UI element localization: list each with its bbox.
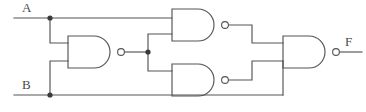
- nand-gate-4-body: [283, 36, 325, 68]
- circuit-canvas: A B F: [0, 0, 366, 112]
- labels-layer: A B F: [22, 0, 352, 92]
- nand-gate-1-inversion-bubble: [118, 49, 125, 56]
- wire-nand1-to-gate3: [148, 52, 172, 71]
- nand-gate-4-inversion-bubble: [333, 49, 340, 56]
- nand-gate-1-body: [68, 36, 110, 68]
- input-label-a: A: [22, 0, 32, 15]
- wires-layer: [14, 18, 362, 95]
- junctions-layer: [47, 15, 150, 97]
- nand-gate-2-inversion-bubble: [222, 22, 229, 29]
- nand-gate-3-inversion-bubble: [222, 77, 229, 84]
- input-label-b: B: [22, 77, 31, 92]
- gate-nand-2: [172, 9, 228, 41]
- junction-nand1-out: [145, 49, 150, 54]
- nand-gate-2-body: [172, 9, 214, 41]
- junction-b: [47, 92, 52, 97]
- gate-nand-3: [172, 64, 228, 96]
- wire-nand2-to-gate4: [228, 25, 283, 43]
- nand-gate-3-body: [172, 64, 214, 96]
- wire-nand1-to-gate2: [148, 34, 172, 52]
- logic-circuit-diagram: A B F: [0, 0, 366, 112]
- junction-a: [47, 15, 52, 20]
- wire-nand3-to-gate4: [228, 61, 283, 80]
- wire-b-branch-to-gate1: [50, 61, 68, 95]
- gate-nand-4: [283, 36, 339, 68]
- wire-a-branch-to-gate1: [50, 18, 68, 43]
- output-label-f: F: [345, 34, 352, 49]
- gate-nand-1: [68, 36, 124, 68]
